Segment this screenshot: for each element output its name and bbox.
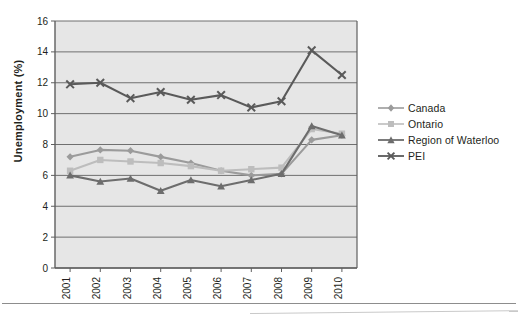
y-tick-label: 8 [42,139,48,150]
y-tick-label: 6 [42,170,48,181]
legend-label: Ontario [408,118,443,130]
legend-label: PEI [408,150,425,162]
y-tick-label: 4 [42,201,48,212]
legend-label: Canada [408,102,445,114]
y-tick-label: 10 [37,108,49,119]
chart-legend: Canada Ontario Region of Waterloo [378,101,518,165]
x-tick-label: 2001 [61,277,72,300]
legend-item-region-of-waterloo[interactable]: Region of Waterloo [378,133,518,147]
x-tick-label: 2006 [212,277,223,300]
legend-label: Region of Waterloo [408,134,499,146]
x-tick-label: 2009 [303,277,314,300]
x-tick-label: 2005 [182,277,193,300]
footer-divider [2,303,516,304]
legend-marker-cross-icon [378,150,404,162]
legend-marker-diamond-icon [378,102,404,114]
y-tick-label: 16 [37,16,49,27]
y-tick-label: 14 [37,46,49,57]
legend-item-ontario[interactable]: Ontario [378,117,518,131]
x-tick-label: 2010 [333,277,344,300]
x-tick-label: 2003 [122,277,133,300]
x-tick-label: 2007 [242,277,253,300]
y-tick-label: 12 [37,77,49,88]
legend-marker-triangle-icon [378,134,404,146]
legend-marker-square-icon [378,118,404,130]
x-tick-label: 2004 [152,277,163,300]
y-tick-label: 2 [42,232,48,243]
legend-item-pei[interactable]: PEI [378,149,518,163]
y-tick-label: 0 [42,263,48,274]
x-tick-label: 2008 [273,277,284,300]
legend-item-canada[interactable]: Canada [378,101,518,115]
chart-figure: Unemployment (%) 02468101214162001200220… [0,0,518,319]
x-tick-label: 2002 [91,277,102,300]
